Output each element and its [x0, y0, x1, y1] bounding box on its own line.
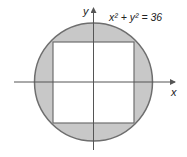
y-axis-label: y: [82, 5, 90, 17]
diagram-canvas: x y x² + y² = 36: [0, 0, 187, 157]
equation-label: x² + y² = 36: [108, 11, 162, 23]
x-axis-label: x: [170, 86, 177, 98]
